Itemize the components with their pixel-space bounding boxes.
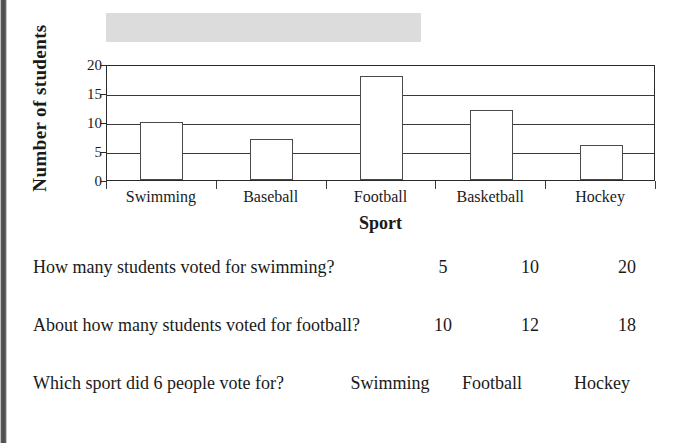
answer-option[interactable]: Swimming xyxy=(335,373,445,394)
answer-option[interactable]: Hockey xyxy=(547,373,657,394)
y-axis-ticks: 05101520 xyxy=(62,65,102,181)
answer-option[interactable]: 18 xyxy=(572,315,682,336)
bar-basketball xyxy=(470,110,513,180)
worksheet-page: Number of students 05101520 Sport Swimmi… xyxy=(0,0,691,443)
question-row: About how many students voted for footba… xyxy=(0,315,691,363)
question-text: How many students voted for swimming? xyxy=(33,257,334,278)
plot-area xyxy=(106,65,655,181)
answer-option[interactable]: Football xyxy=(437,373,547,394)
question-text: About how many students voted for footba… xyxy=(33,315,360,336)
answer-option[interactable]: 20 xyxy=(572,257,682,278)
answer-option[interactable]: 10 xyxy=(475,257,585,278)
x-category-label-basketball: Basketball xyxy=(435,188,545,206)
x-axis-title: Sport xyxy=(106,213,655,234)
question-text: Which sport did 6 people vote for? xyxy=(33,373,284,394)
y-tick-label-20: 20 xyxy=(68,58,102,73)
x-category-label-swimming: Swimming xyxy=(106,188,216,206)
bar-hockey xyxy=(580,145,623,180)
bar-baseball xyxy=(250,139,293,180)
x-category-label-football: Football xyxy=(326,188,436,206)
bar-swimming xyxy=(140,122,183,180)
y-axis-title: Number of students xyxy=(29,18,51,198)
bar-football xyxy=(360,76,403,180)
x-category-label-hockey: Hockey xyxy=(545,188,655,206)
x-category-label-baseball: Baseball xyxy=(216,188,326,206)
y-tick-label-15: 15 xyxy=(68,87,102,102)
answer-option[interactable]: 12 xyxy=(475,315,585,336)
question-row: Which sport did 6 people vote for?Swimmi… xyxy=(0,373,691,421)
y-tick-label-0: 0 xyxy=(68,174,102,189)
y-tick-label-5: 5 xyxy=(68,145,102,160)
bar-chart: Number of students 05101520 Sport Swimmi… xyxy=(0,0,691,250)
question-row: How many students voted for swimming?510… xyxy=(0,257,691,305)
x-tick-5 xyxy=(655,181,656,189)
y-tick-label-10: 10 xyxy=(68,116,102,131)
